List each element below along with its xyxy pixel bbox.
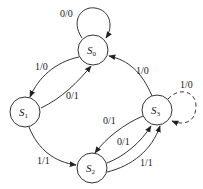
state-s3: S3 bbox=[142, 95, 172, 125]
state-s2-sub: 2 bbox=[92, 168, 96, 176]
transition-s0-s0 bbox=[77, 8, 110, 38]
transition-label-s2-s3-b: 1/1 bbox=[140, 157, 153, 168]
state-s1-sub: 1 bbox=[25, 112, 29, 120]
transition-label-s3-s2: 0/1 bbox=[103, 115, 116, 126]
transition-label-s0-s1: 1/0 bbox=[35, 61, 48, 72]
state-s3-sub: 3 bbox=[157, 110, 161, 118]
state-s2: S2 bbox=[77, 153, 107, 183]
state-s1: S1 bbox=[10, 97, 40, 127]
state-s0: S0 bbox=[78, 35, 108, 65]
state-s0-sub: 0 bbox=[93, 50, 97, 58]
transition-label-s3-s3: 1/0 bbox=[180, 79, 193, 90]
transition-label-s0-s0: 0/0 bbox=[60, 8, 73, 19]
state-diagram: 0/0 1/0 0/1 1/1 1/0 1/0 0/1 0/1 1/1 S0 S… bbox=[0, 0, 203, 189]
transition-label-s1-s0: 0/1 bbox=[66, 90, 79, 101]
transition-s3-s0 bbox=[109, 56, 152, 96]
transition-label-s2-s3-a: 0/1 bbox=[117, 136, 130, 147]
transition-label-s1-s2: 1/1 bbox=[37, 155, 50, 166]
transition-label-s3-s0: 1/0 bbox=[136, 65, 149, 76]
